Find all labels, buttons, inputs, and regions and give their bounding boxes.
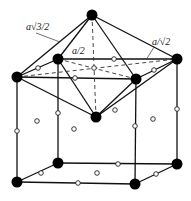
small-atom <box>92 66 97 71</box>
large-atom-top-apex <box>87 10 98 21</box>
large-atom-bottom-front-left <box>12 177 23 188</box>
small-atom <box>35 119 40 124</box>
dimension-labels: a√3/2 a/2 a/√2 <box>26 21 170 56</box>
small-atom <box>152 68 157 73</box>
large-atom-bottom-back-right <box>172 159 183 170</box>
small-atom <box>133 124 138 129</box>
large-atom-upper-back-left <box>53 54 64 65</box>
small-atom <box>112 57 117 62</box>
large-atom-upper-front-left <box>12 72 23 83</box>
small-atom <box>113 108 118 113</box>
small-atom <box>154 172 159 177</box>
small-atom <box>116 162 121 167</box>
crystal-lattice-diagram: a√3/2 a/2 a/√2 <box>0 0 191 201</box>
large-atom-upper-front-right <box>131 74 142 85</box>
small-atom <box>151 117 156 122</box>
large-atom-upper-back-right <box>172 54 183 65</box>
small-atom <box>36 66 41 71</box>
small-atom <box>72 127 77 132</box>
small-atom <box>76 181 81 186</box>
large-atom-lower-apex <box>91 112 102 123</box>
large-atom-bottom-front-right <box>130 179 141 190</box>
small-atom <box>73 76 78 81</box>
small-atom <box>56 111 61 116</box>
small-atom <box>39 171 44 176</box>
label-a-sqrt2: a/√2 <box>152 36 170 47</box>
small-atom <box>95 171 100 176</box>
large-atom-bottom-back-left <box>53 158 64 169</box>
label-a-sqrt3-2: a√3/2 <box>26 21 49 32</box>
small-atom <box>175 107 180 112</box>
small-atom <box>15 129 20 134</box>
label-a-2: a/2 <box>72 45 85 56</box>
